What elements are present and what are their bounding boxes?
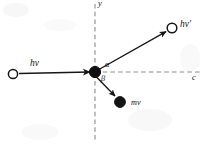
scattered-photon-marker [167, 23, 177, 33]
recoil-electron-marker [115, 97, 126, 108]
incident-photon-arrow [19, 72, 90, 73]
recoil-electron-arrow [97, 77, 116, 96]
incident-photon-marker [8, 69, 17, 78]
scattered-photon-label: hν′ [180, 20, 191, 30]
scattering-vertex-marker [89, 66, 100, 77]
recoil-electron-label: mv [131, 99, 141, 107]
angle-alpha-label: α [105, 61, 109, 69]
incident-photon-label: hν [30, 59, 39, 69]
compton-scattering-figure: hν hν′ mv α β y c [0, 0, 205, 148]
angle-beta-label: β [101, 75, 105, 83]
c-axis-label: c [192, 74, 196, 82]
y-axis-label: y [98, 0, 102, 8]
